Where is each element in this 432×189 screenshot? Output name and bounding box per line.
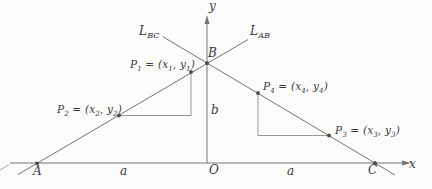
vertex-a-label: A bbox=[33, 165, 42, 177]
y-axis-arrowhead-icon bbox=[205, 15, 210, 24]
base-right-label: a bbox=[287, 165, 294, 177]
line-bc bbox=[163, 37, 395, 175]
base-left-label: a bbox=[120, 165, 127, 177]
point-p1-label: P1 = (x1, y1) bbox=[130, 59, 195, 70]
vertex-c-label: C bbox=[368, 164, 377, 176]
diagram-canvas bbox=[0, 0, 432, 189]
y-axis-label: y bbox=[209, 0, 216, 12]
point-dot-b bbox=[205, 61, 209, 65]
x-axis-label: x bbox=[409, 158, 416, 170]
point-dot-p4 bbox=[256, 91, 260, 95]
height-b-label: b bbox=[211, 104, 219, 116]
point-p4-label: P4 = (x4, y4) bbox=[263, 81, 328, 92]
origin-label: O bbox=[209, 164, 219, 176]
left-edge-artifact bbox=[0, 165, 9, 171]
point-p2-label: P2 = (x2, y2) bbox=[57, 104, 122, 115]
point-p3-label: P3 = (x3, y3) bbox=[335, 125, 400, 136]
geometry-diagram: y x O LBC LAB A B C a a b P1 = (x1, y1) … bbox=[0, 0, 432, 189]
line-ab-label: LAB bbox=[250, 25, 270, 37]
vertex-b-label: B bbox=[208, 47, 217, 59]
point-dot-p3 bbox=[327, 134, 331, 138]
line-bc-label: LBC bbox=[139, 25, 160, 37]
